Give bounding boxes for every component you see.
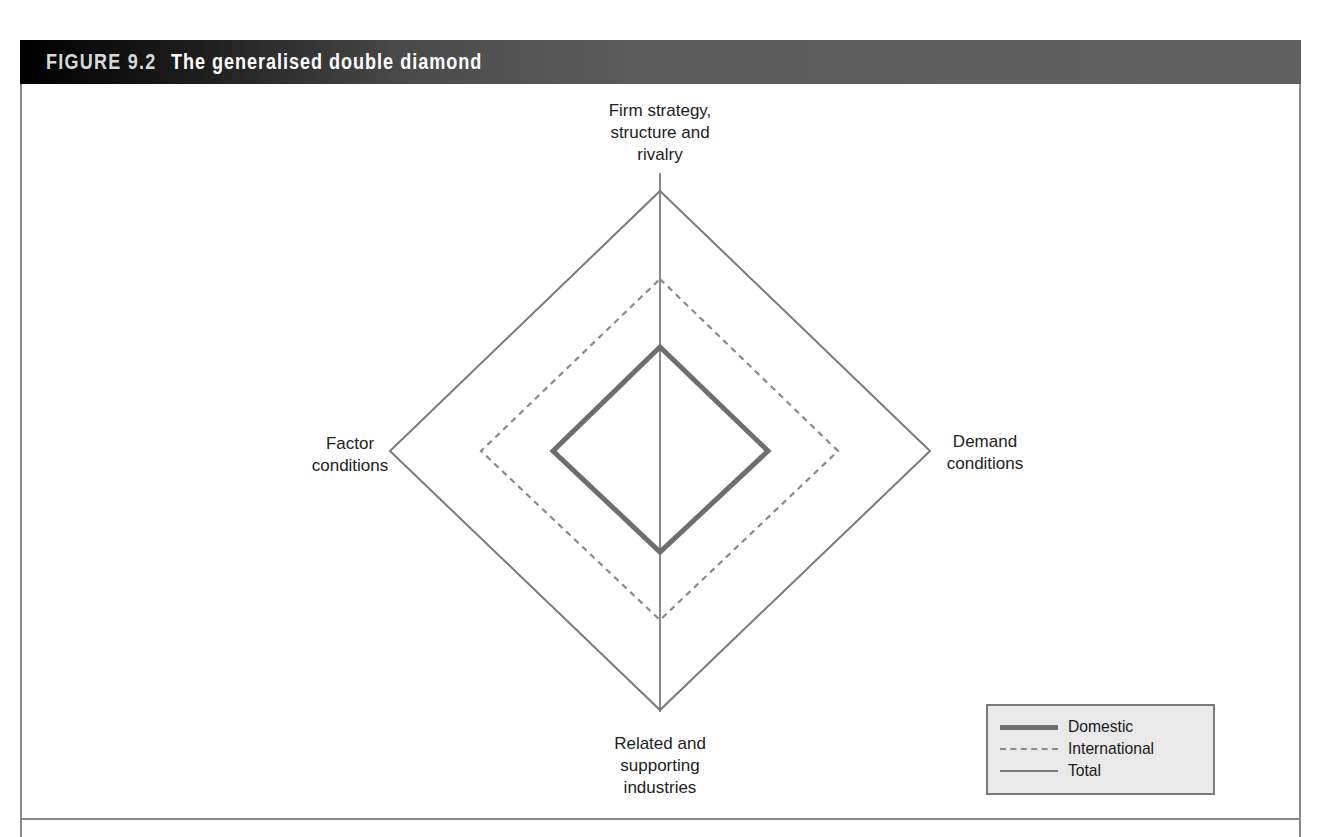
legend-item-international: International [1000, 738, 1213, 760]
dashed-line-swatch-icon [1000, 748, 1058, 750]
thin-line-swatch-icon [1000, 770, 1058, 772]
label-demand-conditions: Demand conditions [905, 431, 1065, 475]
legend-label: Total [1068, 761, 1101, 781]
legend: Domestic International Total [986, 704, 1215, 795]
legend-label: International [1068, 739, 1154, 759]
label-factor-conditions: Factor conditions [270, 433, 430, 477]
legend-item-total: Total [1000, 760, 1213, 782]
label-related-industries: Related and supporting industries [560, 733, 760, 799]
thick-line-swatch-icon [1000, 725, 1058, 730]
legend-item-domestic: Domestic [1000, 716, 1213, 738]
legend-label: Domestic [1068, 717, 1133, 737]
label-firm-strategy: Firm strategy, structure and rivalry [560, 100, 760, 166]
